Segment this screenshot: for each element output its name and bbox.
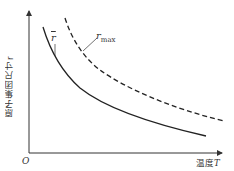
rmax-sub: max	[101, 36, 116, 44]
x-axis-variable: T	[214, 158, 220, 168]
rmax-curve	[65, 18, 224, 121]
rmax-annotation: rmax	[96, 30, 116, 44]
rmax-leader-line	[83, 38, 97, 51]
origin-label: O	[22, 156, 29, 166]
y-axis-label: 原子集团尺寸r	[4, 50, 22, 124]
x-axis-label: 温度T	[196, 156, 220, 168]
rbar-annotation: r	[51, 32, 56, 43]
chart-canvas	[0, 0, 234, 171]
rbar-curve	[43, 27, 206, 136]
x-axis-label-text: 温度	[196, 158, 214, 168]
